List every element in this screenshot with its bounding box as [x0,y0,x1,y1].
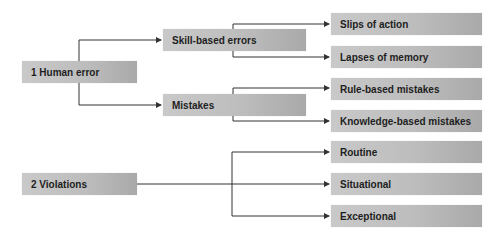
node-label: Skill-based errors [172,35,256,46]
node-exceptional: Exceptional [331,205,482,227]
node-label: 2 Violations [31,179,87,190]
node-label: Routine [340,147,377,158]
node-lapses-of-memory: Lapses of memory [331,46,482,68]
node-violations: 2 Violations [22,173,137,195]
arrow-mistakes-to-knowledge [233,116,329,121]
node-label: Slips of action [340,19,408,30]
node-label: Rule-based mistakes [340,84,440,95]
node-situational: Situational [331,173,482,195]
node-knowledge-based-mistakes: Knowledge-based mistakes [331,110,482,132]
node-skill-based-errors: Skill-based errors [163,29,306,51]
node-mistakes: Mistakes [163,94,306,116]
node-label: Lapses of memory [340,52,428,63]
node-label: Mistakes [172,100,214,111]
arrow-human-to-skill [79,40,161,61]
node-label: Situational [340,179,391,190]
node-label: 1 Human error [31,67,99,78]
node-human-error: 1 Human error [22,61,137,83]
node-label: Knowledge-based mistakes [340,116,471,127]
node-slips-of-action: Slips of action [331,13,482,35]
arrow-skill-to-lapses [233,51,329,57]
node-routine: Routine [331,141,482,163]
arrow-human-to-mistakes [79,83,161,105]
node-rule-based-mistakes: Rule-based mistakes [331,78,482,100]
node-label: Exceptional [340,211,396,222]
